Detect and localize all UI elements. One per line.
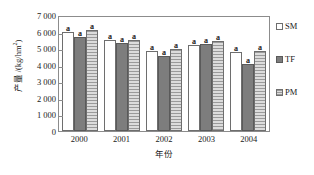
bar-tf-2004[interactable]: a: [242, 64, 254, 131]
significance-label: a: [246, 57, 250, 65]
significance-label: a: [66, 25, 70, 33]
legend-item-pm[interactable]: PM: [276, 88, 314, 97]
significance-label: a: [78, 30, 82, 38]
bar-sm-2004[interactable]: a: [230, 52, 242, 131]
significance-label: a: [120, 36, 124, 44]
bar-pm-2000[interactable]: a: [86, 30, 98, 131]
significance-label: a: [150, 44, 154, 52]
bar-slot: a: [254, 17, 266, 131]
bar-groups: aaaaaaaaaaaaaaa: [59, 17, 269, 131]
bar-group: aaa: [104, 17, 140, 131]
legend-label: SM: [285, 22, 297, 31]
significance-label: a: [174, 42, 178, 50]
bar-pm-2001[interactable]: a: [128, 40, 140, 131]
chart-legend: SMTFPM: [276, 22, 314, 97]
bar-slot: a: [146, 17, 158, 131]
plot-area: aaaaaaaaaaaaaaa: [58, 16, 270, 132]
bar-group: aaa: [146, 17, 182, 131]
bar-pm-2002[interactable]: a: [170, 49, 182, 131]
y-axis-tick-label: 0: [52, 128, 56, 136]
y-axis-tick-label: 6 000: [37, 29, 56, 37]
y-axis-tick-label: 7 000: [37, 12, 56, 20]
significance-label: a: [258, 44, 262, 52]
significance-label: a: [234, 45, 238, 53]
y-axis-tick-label: 1 000: [37, 111, 56, 119]
significance-label: a: [192, 38, 196, 46]
legend-item-sm[interactable]: SM: [276, 22, 314, 31]
legend-swatch-tf: [276, 56, 283, 63]
bar-group: aaa: [230, 17, 266, 131]
bar-slot: a: [116, 17, 128, 131]
significance-label: a: [132, 33, 136, 41]
yield-bar-chart: 产量 /(kg/hm2) 7 0006 0005 0004 0003 0002 …: [0, 0, 314, 175]
bar-slot: a: [104, 17, 116, 131]
significance-label: a: [162, 49, 166, 57]
bar-slot: a: [242, 17, 254, 131]
significance-label: a: [216, 34, 220, 42]
bar-tf-2002[interactable]: a: [158, 56, 170, 131]
legend-label: PM: [285, 88, 297, 97]
y-axis-tick-mark: [59, 67, 63, 68]
x-axis-title: 年份: [58, 147, 270, 159]
bar-pm-2004[interactable]: a: [254, 51, 266, 131]
y-axis-tick-mark: [59, 116, 63, 117]
bar-pm-2003[interactable]: a: [212, 41, 224, 131]
y-axis-tick-label: 4 000: [37, 62, 56, 70]
significance-label: a: [90, 23, 94, 31]
x-axis-tick-label: 2000: [58, 134, 100, 146]
bar-slot: a: [170, 17, 182, 131]
bar-slot: a: [62, 17, 74, 131]
legend-label: TF: [285, 55, 295, 64]
bar-slot: a: [230, 17, 242, 131]
y-axis-tick-mark: [59, 50, 63, 51]
bar-tf-2003[interactable]: a: [200, 44, 212, 131]
bar-slot: a: [128, 17, 140, 131]
bar-slot: a: [188, 17, 200, 131]
y-axis-tick-label: 2 000: [37, 95, 56, 103]
x-axis-tick-label: 2003: [185, 134, 227, 146]
x-axis-tick-label: 2001: [100, 134, 142, 146]
y-axis-tick-mark: [59, 83, 63, 84]
x-axis-tick-label: 2004: [228, 134, 270, 146]
bar-slot: a: [86, 17, 98, 131]
significance-label: a: [204, 37, 208, 45]
bar-sm-2001[interactable]: a: [104, 40, 116, 131]
y-axis-tick-mark: [59, 100, 63, 101]
bar-slot: a: [74, 17, 86, 131]
bar-sm-2000[interactable]: a: [62, 32, 74, 131]
significance-label: a: [108, 33, 112, 41]
y-axis-tick-label: 5 000: [37, 45, 56, 53]
bar-group: aaa: [62, 17, 98, 131]
bar-slot: a: [212, 17, 224, 131]
bar-sm-2003[interactable]: a: [188, 45, 200, 131]
bar-slot: a: [200, 17, 212, 131]
legend-item-tf[interactable]: TF: [276, 55, 314, 64]
bar-tf-2001[interactable]: a: [116, 43, 128, 131]
y-axis-tick-label: 3 000: [37, 78, 56, 86]
legend-swatch-pm: [276, 89, 283, 96]
bar-group: aaa: [188, 17, 224, 131]
legend-swatch-sm: [276, 23, 283, 30]
y-axis-tick-labels: 7 0006 0005 0004 0003 0002 0001 0000: [18, 16, 56, 132]
bar-tf-2000[interactable]: a: [74, 37, 86, 131]
bar-slot: a: [158, 17, 170, 131]
x-axis-tick-labels: 20002001200220032004: [58, 134, 270, 146]
x-axis-tick-label: 2002: [143, 134, 185, 146]
bar-sm-2002[interactable]: a: [146, 51, 158, 131]
y-axis-tick-mark: [59, 34, 63, 35]
